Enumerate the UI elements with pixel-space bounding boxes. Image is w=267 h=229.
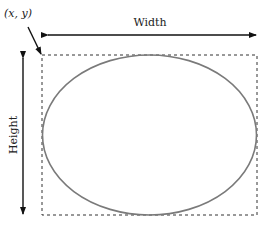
ellipse-bounding-box-diagram: (x, y) Width Height <box>0 0 267 229</box>
width-label: Width <box>133 16 166 29</box>
ellipse-shape <box>43 55 257 215</box>
diagram-svg: (x, y) Width Height <box>0 0 267 229</box>
height-label: Height <box>7 115 20 154</box>
origin-pointer-arrow <box>28 27 41 54</box>
origin-label: (x, y) <box>4 7 32 20</box>
